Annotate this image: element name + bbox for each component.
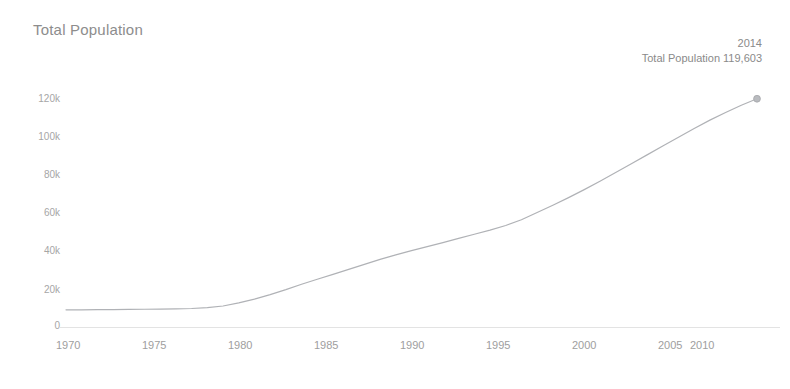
x-tick-label: 1995	[486, 339, 510, 351]
x-tick-label: 1970	[56, 339, 80, 351]
y-tick-label: 80k	[18, 169, 60, 180]
y-tick-label: 20k	[18, 284, 60, 295]
line-chart-plot	[0, 0, 790, 389]
y-tick-label: 0	[18, 320, 60, 331]
x-tick-label: 2000	[572, 339, 596, 351]
y-tick-label: 100k	[18, 131, 60, 142]
x-tick-label: 1980	[228, 339, 252, 351]
y-tick-label: 60k	[18, 207, 60, 218]
y-tick-label: 120k	[18, 93, 60, 104]
x-tick-label: 1990	[400, 339, 424, 351]
series-line-total-population	[66, 99, 757, 310]
x-tick-label: 2010	[690, 339, 714, 351]
x-tick-label: 1985	[314, 339, 338, 351]
chart-page: Total Population 2014 Total Population 1…	[0, 0, 790, 389]
end-point-marker[interactable]	[754, 95, 761, 102]
x-tick-label: 2005	[658, 339, 682, 351]
y-tick-label: 40k	[18, 245, 60, 256]
x-tick-label: 1975	[142, 339, 166, 351]
